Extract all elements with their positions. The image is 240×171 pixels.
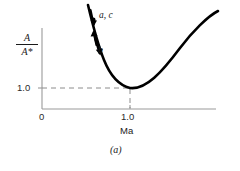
x-axis-label: Ma <box>120 126 133 136</box>
annotation-label-ac: a, c <box>99 11 113 21</box>
x-tick-label-0: 0 <box>39 112 44 122</box>
y-axis-label-fraction-bar <box>16 44 38 45</box>
y-axis-label: A A* <box>14 32 40 57</box>
figure-container: A A* 1.0 0 1.0 Ma a, c b (a) <box>0 0 240 171</box>
annotation-label-b: b <box>98 46 103 56</box>
y-tick-label-1.0: 1.0 <box>17 83 30 93</box>
x-tick-label-1.0: 1.0 <box>121 112 134 122</box>
y-axis-label-numerator: A <box>14 32 40 43</box>
y-axis-label-denominator: A* <box>14 46 40 57</box>
figure-caption: (a) <box>110 145 122 155</box>
